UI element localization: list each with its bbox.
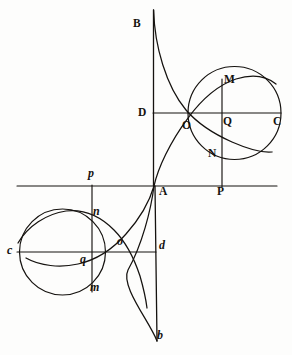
cissoid-mirror-branch-left-lower bbox=[26, 186, 154, 266]
point-label-p: p bbox=[88, 167, 94, 179]
point-label-n: n bbox=[93, 205, 100, 217]
asymptote-Ab bbox=[155, 186, 157, 341]
geometric-figure: BDMOQCNAPpnocdqmb bbox=[0, 0, 292, 355]
point-label-O: O bbox=[182, 120, 191, 132]
cissoid-lower-branch bbox=[154, 76, 276, 186]
point-label-o: o bbox=[117, 235, 123, 247]
point-label-D: D bbox=[138, 107, 146, 119]
point-label-c: c bbox=[7, 244, 12, 256]
cissoid-upper-branch bbox=[154, 10, 272, 152]
point-label-M: M bbox=[224, 74, 235, 86]
figure-canvas bbox=[0, 0, 292, 355]
point-label-P: P bbox=[217, 186, 224, 198]
point-label-Q: Q bbox=[223, 116, 232, 128]
point-label-q: q bbox=[80, 253, 86, 265]
point-label-d: d bbox=[159, 239, 165, 251]
point-label-C: C bbox=[273, 116, 281, 128]
point-label-A: A bbox=[159, 186, 167, 198]
point-label-b: b bbox=[157, 329, 163, 341]
point-label-B: B bbox=[133, 18, 141, 30]
point-label-N: N bbox=[208, 148, 216, 160]
cissoid-mirror-branch-b bbox=[127, 186, 157, 341]
point-label-m: m bbox=[90, 281, 99, 293]
